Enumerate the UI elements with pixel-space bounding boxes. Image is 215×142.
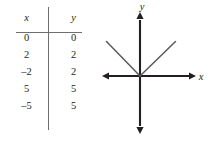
table-row: 2 2 [10, 46, 90, 63]
x-axis-label: x [198, 71, 204, 82]
curve-ray-left [107, 42, 141, 77]
cell-x: 2 [10, 46, 50, 63]
table-of-values-panel: x y 0 0 2 2 –2 2 5 5 [0, 0, 100, 142]
table-row: –2 2 [10, 63, 90, 80]
cell-x: –2 [10, 63, 50, 80]
cell-y: 2 [50, 46, 90, 63]
cell-x: 5 [10, 80, 50, 97]
table-header-row: x y [10, 8, 90, 29]
x-axis-left-arrow-icon [102, 72, 109, 79]
table-row: –5 5 [10, 97, 90, 114]
column-header-x: x [10, 8, 50, 29]
cell-x: –5 [10, 97, 50, 114]
y-axis-down-arrow-icon [136, 127, 143, 134]
values-table: x y 0 0 2 2 –2 2 5 5 [10, 8, 90, 114]
column-header-y: y [50, 8, 90, 29]
y-axis-label: y [139, 1, 145, 12]
coordinate-graph: x y [100, 0, 215, 142]
y-axis-up-arrow-icon [136, 12, 143, 19]
table-header-rule [16, 32, 82, 33]
table-column-divider [48, 7, 49, 130]
cell-y: 5 [50, 97, 90, 114]
table-row: 5 5 [10, 80, 90, 97]
figure-root: x y 0 0 2 2 –2 2 5 5 [0, 0, 215, 142]
curve-ray-right [140, 42, 176, 77]
cell-y: 5 [50, 80, 90, 97]
graph-panel: x y [100, 0, 215, 142]
cell-y: 2 [50, 63, 90, 80]
x-axis-right-arrow-icon [189, 72, 196, 79]
